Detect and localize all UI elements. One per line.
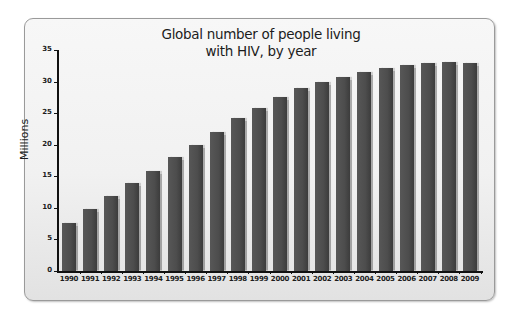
x-tick bbox=[80, 271, 81, 274]
bar-1998 bbox=[231, 118, 245, 271]
x-tick bbox=[459, 271, 460, 274]
x-tick bbox=[396, 271, 397, 274]
x-tick-label: 2009 bbox=[458, 275, 482, 283]
x-tick bbox=[291, 271, 292, 274]
bar-1994 bbox=[146, 171, 160, 271]
y-tick-label: 0 bbox=[32, 266, 52, 274]
bar-2001 bbox=[294, 88, 308, 271]
bar-1999 bbox=[252, 108, 266, 271]
y-tick bbox=[54, 271, 58, 272]
bar-1993 bbox=[125, 183, 139, 271]
bar-2008 bbox=[442, 62, 456, 271]
bar-1995 bbox=[168, 157, 182, 271]
x-tick bbox=[333, 271, 334, 274]
x-tick bbox=[248, 271, 249, 274]
bar-1991 bbox=[83, 209, 97, 271]
x-tick bbox=[438, 271, 439, 274]
bar-2005 bbox=[379, 68, 393, 271]
y-tick bbox=[54, 50, 58, 51]
bar-2006 bbox=[400, 65, 414, 271]
chart-title: Global number of people living with HIV,… bbox=[0, 26, 522, 60]
bar-1997 bbox=[210, 132, 224, 271]
bar-2000 bbox=[273, 97, 287, 271]
y-tick-label: 10 bbox=[32, 203, 52, 211]
y-tick bbox=[54, 113, 58, 114]
y-axis-label: Millions bbox=[18, 119, 31, 160]
y-tick-label: 35 bbox=[32, 45, 52, 53]
y-tick bbox=[54, 82, 58, 83]
bar-1996 bbox=[189, 145, 203, 271]
bar-2002 bbox=[315, 82, 329, 271]
bar-2009 bbox=[463, 63, 477, 271]
y-tick-label: 20 bbox=[32, 140, 52, 148]
bar-2004 bbox=[357, 72, 371, 271]
y-tick bbox=[54, 176, 58, 177]
x-tick bbox=[354, 271, 355, 274]
chart-title-line-2: with HIV, by year bbox=[0, 43, 522, 60]
x-tick bbox=[185, 271, 186, 274]
y-tick-label: 30 bbox=[32, 77, 52, 85]
x-tick bbox=[417, 271, 418, 274]
x-tick bbox=[375, 271, 376, 274]
y-tick-label: 5 bbox=[32, 234, 52, 242]
y-tick-label: 25 bbox=[32, 108, 52, 116]
bar-2007 bbox=[421, 63, 435, 271]
y-tick-label: 15 bbox=[32, 171, 52, 179]
x-tick bbox=[164, 271, 165, 274]
y-tick bbox=[54, 239, 58, 240]
x-tick bbox=[481, 271, 482, 274]
x-tick bbox=[270, 271, 271, 274]
x-tick bbox=[143, 271, 144, 274]
bar-1990 bbox=[62, 223, 76, 271]
y-tick bbox=[54, 208, 58, 209]
x-tick bbox=[206, 271, 207, 274]
y-tick bbox=[54, 145, 58, 146]
x-tick bbox=[312, 271, 313, 274]
bar-2003 bbox=[336, 77, 350, 271]
bar-1992 bbox=[104, 196, 118, 271]
x-tick bbox=[122, 271, 123, 274]
chart-title-line-1: Global number of people living bbox=[0, 26, 522, 43]
x-tick bbox=[101, 271, 102, 274]
x-tick bbox=[227, 271, 228, 274]
